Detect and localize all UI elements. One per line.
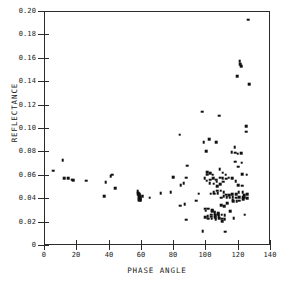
data-point [231,177,234,180]
data-point [240,161,243,164]
x-axis-tick-label: 60 [126,252,156,259]
y-axis-tick-inner [44,58,49,59]
data-point [216,192,219,195]
data-point [114,187,117,190]
x-axis-tick [270,245,271,250]
x-axis-tick-inner [44,240,45,245]
y-axis-tick-label: 0.12 [0,102,36,109]
data-point [241,173,244,176]
data-point [235,180,238,183]
data-point [185,176,188,179]
x-axis-tick [109,245,110,250]
data-point [234,160,237,163]
data-point [246,197,249,200]
data-point [104,181,107,184]
data-points-layer [45,12,269,244]
data-point [179,204,182,207]
data-point [140,199,143,202]
data-point [237,184,240,187]
data-point [218,168,221,171]
data-point [103,195,106,198]
data-point [148,197,151,200]
data-point [245,174,248,177]
data-point [226,202,229,205]
data-point [208,182,211,185]
x-axis-tick-inner [109,240,110,245]
y-axis-tick-label: 0.08 [0,148,36,155]
x-axis-tick-label: 100 [190,252,220,259]
data-point [238,196,241,199]
y-axis-tick-inner [44,175,49,176]
data-point [232,200,235,203]
data-point [222,177,225,180]
data-point [238,199,241,202]
data-point [234,146,237,149]
x-axis-tick-label: 20 [61,252,91,259]
x-axis-tick-inner [205,240,206,245]
y-axis-tick-label: 0 [0,242,36,249]
data-point [186,164,189,167]
data-point [169,191,172,194]
data-point [236,75,239,78]
y-axis-tick-label: 0.02 [0,219,36,226]
data-point [210,218,213,221]
data-point [212,177,215,180]
x-axis-tick-inner [141,240,142,245]
data-point [237,165,240,168]
data-point [230,151,233,154]
data-point [240,65,243,68]
data-point [224,230,227,233]
x-axis-tick-label: 0 [29,252,59,259]
data-point [236,153,239,156]
data-point [182,182,185,185]
data-point [212,182,215,185]
x-axis-tick-label: 140 [255,252,285,259]
y-axis-tick-label: 0.04 [0,195,36,202]
data-point [245,125,248,128]
y-axis-tick-label: 0.16 [0,55,36,62]
x-axis-tick [205,245,206,250]
data-point [224,218,227,221]
x-axis-tick [238,245,239,250]
y-axis-tick-inner [44,151,49,152]
x-axis-title: PHASE ANGLE [44,266,270,275]
x-axis-tick-label: 120 [223,252,253,259]
data-point [172,176,175,179]
data-point [201,230,204,233]
y-axis-tick-label: 0.18 [0,31,36,38]
x-axis-tick [141,245,142,250]
data-point [240,152,243,155]
data-point [207,217,210,220]
data-point [215,141,218,144]
data-point [219,183,222,186]
data-point [67,177,70,180]
plot-area [44,11,270,245]
data-point [216,185,219,188]
data-point [185,218,188,221]
data-point [238,60,241,63]
y-axis-tick-label: 0.06 [0,172,36,179]
data-point [223,214,226,217]
data-point [207,207,210,210]
y-axis-tick-inner [44,105,49,106]
data-point [201,110,204,113]
data-point [205,150,208,153]
x-axis-tick-inner [238,240,239,245]
x-axis-tick-inner [270,240,271,245]
data-point [203,141,206,144]
data-point [247,18,250,21]
data-point [63,177,66,180]
x-axis-tick [76,245,77,250]
y-axis-tick-inner [44,222,49,223]
data-point [223,205,226,208]
data-point [218,115,221,118]
data-point [245,130,248,133]
x-axis-tick-inner [76,240,77,245]
y-axis-tick-inner [44,128,49,129]
data-point [221,171,224,174]
y-axis-tick-inner [44,34,49,35]
data-point [215,181,218,184]
data-point [111,174,114,177]
data-point [214,218,217,221]
data-point [178,133,181,136]
